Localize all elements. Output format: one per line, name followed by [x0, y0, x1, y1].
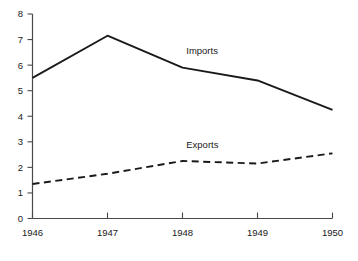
y-tick-label-8: 8: [18, 8, 23, 19]
series-line-exports: [33, 153, 333, 184]
x-tick-label-1950: 1950: [322, 227, 343, 238]
y-tick-label-5: 5: [18, 85, 23, 96]
series-line-imports: [33, 36, 333, 110]
x-tick-label-1947: 1947: [97, 227, 118, 238]
x-tick-label-1949: 1949: [247, 227, 268, 238]
series-label-exports: Exports: [186, 139, 218, 150]
y-tick-label-4: 4: [18, 111, 23, 122]
y-tick-label-3: 3: [18, 136, 23, 147]
y-tick-label-1: 1: [18, 187, 23, 198]
x-tick-label-1948: 1948: [172, 227, 193, 238]
y-tick-label-0: 0: [18, 213, 23, 224]
data-series-group: [33, 36, 333, 184]
x-tick-marks: [33, 213, 333, 219]
y-axis: 012345678: [18, 8, 33, 224]
x-tick-label-1946: 1946: [22, 227, 43, 238]
line-chart: 012345678 19461947194819491950 ImportsEx…: [0, 0, 358, 261]
x-axis: 19461947194819491950: [22, 213, 343, 239]
y-tick-labels: 012345678: [18, 8, 23, 224]
y-tick-label-7: 7: [18, 34, 23, 45]
y-tick-label-6: 6: [18, 60, 23, 71]
y-tick-label-2: 2: [18, 162, 23, 173]
y-tick-marks: [28, 14, 33, 219]
series-label-imports: Imports: [186, 45, 218, 56]
series-label-group: ImportsExports: [186, 45, 218, 151]
x-tick-labels: 19461947194819491950: [22, 227, 343, 238]
chart-canvas: 012345678 19461947194819491950 ImportsEx…: [0, 0, 358, 261]
